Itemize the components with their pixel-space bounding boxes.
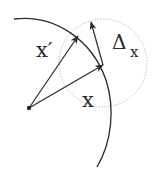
label-delta: Δ [112,30,126,54]
label-x-prime: x′ [36,38,53,62]
label-delta-subscript: x [130,43,139,61]
vector-delta [91,22,103,65]
diagram-canvas: x′ x Δ x [0,0,156,190]
label-x: x [82,88,94,112]
diagram-svg: x′ x Δ x [0,0,156,190]
